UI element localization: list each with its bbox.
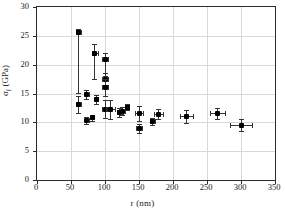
y-error-cap bbox=[184, 110, 189, 111]
y-error-cap bbox=[156, 109, 161, 110]
y-gridline bbox=[37, 151, 275, 152]
data-marker bbox=[76, 102, 81, 107]
x-error-cap bbox=[108, 57, 109, 62]
y-axis-tick-label: 10 bbox=[0, 117, 29, 126]
y-error-cap bbox=[103, 118, 108, 119]
data-marker bbox=[103, 57, 108, 62]
data-marker bbox=[156, 112, 161, 117]
y-axis-tick-label: 30 bbox=[0, 2, 29, 11]
y-error-cap bbox=[108, 100, 113, 101]
plot-area bbox=[36, 6, 276, 181]
x-error-cap bbox=[154, 112, 155, 117]
data-marker bbox=[184, 114, 189, 119]
y-error-cap bbox=[76, 113, 81, 114]
y-error-cap bbox=[120, 115, 125, 116]
y-axis-tick bbox=[33, 180, 37, 181]
data-marker bbox=[239, 123, 244, 128]
y-axis-tick-label: 20 bbox=[0, 60, 29, 69]
x-axis-title: r (nm) bbox=[0, 198, 285, 208]
data-marker bbox=[76, 30, 81, 35]
y-error-cap bbox=[125, 110, 130, 111]
data-marker bbox=[150, 119, 155, 124]
x-error-cap bbox=[142, 126, 143, 131]
y-error-cap bbox=[90, 121, 95, 122]
y-error-cap bbox=[137, 133, 142, 134]
data-marker bbox=[215, 111, 220, 116]
y-error-cap bbox=[92, 79, 97, 80]
y-error-cap bbox=[108, 119, 113, 120]
y-error-cap bbox=[215, 108, 220, 109]
y-error-cap bbox=[103, 100, 108, 101]
x-error-cap bbox=[108, 77, 109, 82]
x-error-cap bbox=[135, 111, 136, 116]
y-error-cap bbox=[92, 44, 97, 45]
y-error-cap bbox=[94, 104, 99, 105]
x-error-cap bbox=[143, 111, 144, 116]
y-axis-tick-label: 15 bbox=[0, 89, 29, 98]
data-marker bbox=[125, 105, 130, 110]
scatter-chart: σf (GPa) r (nm) 050100150200250300350051… bbox=[0, 0, 285, 215]
data-marker bbox=[94, 97, 99, 102]
x-error-cap bbox=[115, 107, 116, 112]
data-marker bbox=[84, 118, 89, 123]
y-error-cap bbox=[84, 90, 89, 91]
y-error-bar bbox=[78, 29, 79, 92]
x-error-cap bbox=[180, 114, 181, 119]
y-error-cap bbox=[150, 125, 155, 126]
y-error-cap bbox=[117, 117, 122, 118]
y-axis-tick bbox=[33, 7, 37, 8]
y-axis-tick bbox=[33, 94, 37, 95]
y-error-cap bbox=[103, 73, 108, 74]
y-axis-tick-label: 5 bbox=[0, 146, 29, 155]
x-error-cap bbox=[210, 111, 211, 116]
y-error-cap bbox=[137, 121, 142, 122]
y-error-cap bbox=[239, 131, 244, 132]
y-gridline bbox=[37, 36, 275, 37]
x-error-cap bbox=[252, 123, 253, 128]
y-gridline bbox=[37, 94, 275, 95]
x-error-cap bbox=[98, 51, 99, 56]
y-axis-tick-label: 0 bbox=[0, 175, 29, 184]
y-error-cap bbox=[103, 53, 108, 54]
y-axis-tick bbox=[33, 36, 37, 37]
y-error-cap bbox=[239, 119, 244, 120]
data-marker bbox=[137, 111, 142, 116]
y-axis-tick bbox=[33, 151, 37, 152]
data-marker bbox=[90, 115, 95, 120]
x-axis-tick-label: 350 bbox=[254, 183, 285, 192]
y-error-cap bbox=[137, 106, 142, 107]
y-error-bar bbox=[94, 44, 95, 79]
y-gridline bbox=[37, 65, 275, 66]
data-marker bbox=[103, 85, 108, 90]
x-error-cap bbox=[193, 114, 194, 119]
y-error-cap bbox=[84, 124, 89, 125]
y-axis-tick bbox=[33, 122, 37, 123]
y-axis-tick-label: 25 bbox=[0, 31, 29, 40]
y-error-cap bbox=[103, 96, 108, 97]
y-error-cap bbox=[76, 96, 81, 97]
data-marker bbox=[84, 92, 89, 97]
data-marker bbox=[137, 126, 142, 131]
y-error-cap bbox=[184, 123, 189, 124]
y-error-cap bbox=[215, 119, 220, 120]
y-error-cap bbox=[137, 124, 142, 125]
y-error-cap bbox=[76, 93, 81, 94]
data-marker bbox=[108, 107, 113, 112]
y-error-cap bbox=[156, 119, 161, 120]
x-error-cap bbox=[225, 111, 226, 116]
y-error-cap bbox=[94, 95, 99, 96]
x-error-cap bbox=[230, 123, 231, 128]
y-error-cap bbox=[103, 79, 108, 80]
x-error-cap bbox=[163, 112, 164, 117]
x-error-cap bbox=[81, 102, 82, 107]
data-marker bbox=[92, 51, 97, 56]
x-error-cap bbox=[108, 85, 109, 90]
y-axis-title-unit: (GPa) bbox=[0, 65, 10, 89]
y-error-cap bbox=[84, 99, 89, 100]
y-axis-tick bbox=[33, 65, 37, 66]
